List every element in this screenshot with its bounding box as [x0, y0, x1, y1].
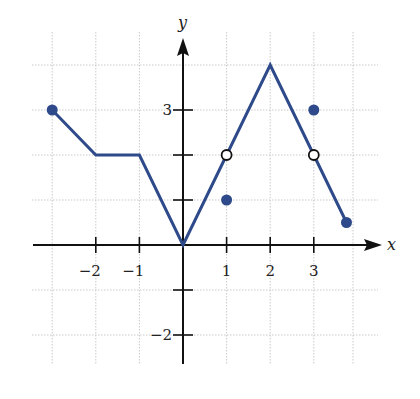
filled-point [221, 195, 232, 206]
filled-point [341, 217, 352, 228]
x-axis-label: x [387, 235, 396, 254]
x-tick-label: −1 [122, 262, 144, 280]
x-tick-label: 2 [265, 262, 275, 280]
axis-ticks: −2−11233−2 [79, 101, 319, 344]
filled-point [47, 105, 58, 116]
x-tick-label: −2 [79, 262, 101, 280]
axes [33, 38, 382, 364]
y-tick-label: −2 [150, 326, 172, 344]
filled-point [308, 105, 319, 116]
x-tick-label: 3 [309, 262, 319, 280]
function-graph: −2−11233−2 x y [0, 0, 420, 399]
open-point [309, 150, 319, 160]
y-axis-label: y [177, 13, 188, 32]
y-tick-label: 3 [162, 101, 172, 119]
x-tick-label: 1 [222, 262, 232, 280]
open-point [222, 150, 232, 160]
